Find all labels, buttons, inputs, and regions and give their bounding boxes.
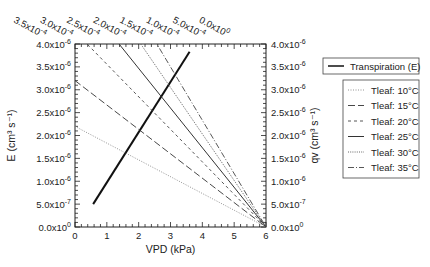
y-tick-label-mantissa: 3.5x10 — [36, 61, 65, 72]
y-tick-label-right-exponent: -6 — [300, 83, 306, 90]
x-axis-title: VPD (kPa) — [146, 243, 196, 255]
y-tick-label-exponent: -6 — [65, 106, 71, 113]
y-tick-label: 0.0x100 — [39, 221, 72, 233]
y-tick-label-right: 2.0x10-6 — [271, 129, 306, 141]
y-tick-label-right-exponent: -6 — [300, 60, 306, 67]
x-tick-label: 6 — [263, 230, 268, 241]
y-tick-label-right-mantissa: 3.0x10 — [271, 84, 300, 95]
x-tick-label: 4 — [200, 230, 205, 241]
x-tick-label: 3 — [168, 230, 173, 241]
y-tick-label-mantissa: 2.0x10 — [36, 130, 65, 141]
y-tick-label-mantissa: 3.0x10 — [36, 84, 65, 95]
y-tick-label-exponent: -6 — [65, 152, 71, 159]
legend-tleaf-label: Tleaf: 15°C — [371, 100, 419, 111]
y-tick-label-mantissa: 2.5x10 — [36, 107, 65, 118]
y-tick-label-mantissa: 1.5x10 — [36, 153, 65, 164]
y-tick-label-right-exponent: 0 — [300, 221, 304, 228]
y-tick-label-exponent: -7 — [65, 198, 71, 205]
series-line-2 — [75, 81, 266, 227]
y-tick-label-right-mantissa: 4.0x10 — [271, 39, 300, 50]
legend-tleaf-label: Tleaf: 20°C — [371, 116, 419, 127]
x-tick-label: 1 — [104, 230, 109, 241]
top-tick-label: 0.0x100 — [198, 13, 232, 39]
y-tick-label: 2.5x10-6 — [36, 106, 71, 118]
series-line-1 — [75, 126, 266, 227]
x-tick-label: 0 — [72, 230, 77, 241]
y-tick-label-exponent: -6 — [65, 129, 71, 136]
y-tick-label-mantissa: 5.0x10 — [36, 199, 65, 210]
y-axis-title-left: E (cm³ s⁻¹) — [5, 109, 17, 161]
y-tick-label: 1.5x10-6 — [36, 152, 71, 164]
y-tick-label-right: 3.5x10-6 — [271, 60, 306, 72]
legend-tleaf-label: Tleaf: 30°C — [371, 147, 419, 158]
legend-transpiration-label: Transpiration (E) — [350, 61, 420, 72]
y-tick-label-right: 4.0x10-6 — [271, 38, 306, 50]
y-tick-label-right: 3.0x10-6 — [271, 83, 306, 95]
y-tick-label-mantissa: 0.0x10 — [39, 222, 68, 233]
y-tick-label-right-exponent: -6 — [300, 175, 306, 182]
y-tick-label-mantissa: 4.0x10 — [36, 39, 65, 50]
y-tick-label-right-mantissa: 2.0x10 — [271, 130, 300, 141]
y-tick-label: 5.0x10-7 — [36, 198, 71, 210]
y-tick-label-right-exponent: -6 — [300, 38, 306, 45]
y-tick-label-exponent: 0 — [67, 221, 71, 228]
legend-tleaf-label: Tleaf: 10°C — [371, 85, 419, 96]
x-tick-label: 5 — [232, 230, 237, 241]
chart: 01234560.0x1000.0x1005.0x10-75.0x10-71.0… — [0, 0, 430, 267]
y-tick-label: 3.0x10-6 — [36, 83, 71, 95]
top-tick-label-mantissa: 3.5x10 — [12, 14, 42, 37]
y-tick-label-mantissa: 1.0x10 — [36, 176, 65, 187]
y-tick-label-right-mantissa: 3.5x10 — [271, 61, 300, 72]
y-tick-label-exponent: -6 — [65, 60, 71, 67]
y-tick-label-right: 5.0x10-7 — [271, 198, 306, 210]
legend-tleaf-label: Tleaf: 35°C — [371, 162, 419, 173]
legend-tleaf-label: Tleaf: 25°C — [371, 131, 419, 142]
y-tick-label: 1.0x10-6 — [36, 175, 71, 187]
y-tick-label-right-mantissa: 1.5x10 — [271, 153, 300, 164]
y-tick-label-exponent: -6 — [65, 175, 71, 182]
y-tick-label-exponent: -6 — [65, 38, 71, 45]
y-tick-label-right-mantissa: 1.0x10 — [271, 176, 300, 187]
y-tick-label-right-mantissa: 5.0x10 — [271, 199, 300, 210]
y-tick-label: 3.5x10-6 — [36, 60, 71, 72]
y-tick-label-right-exponent: -6 — [300, 152, 306, 159]
y-tick-label-right-mantissa: 0.0x10 — [271, 222, 300, 233]
series-line-3 — [75, 32, 266, 227]
y-tick-label-exponent: -6 — [65, 83, 71, 90]
y-tick-label-right-exponent: -6 — [300, 106, 306, 113]
x-tick-label: 2 — [136, 230, 141, 241]
y-axis-title-right: qv (cm³ s⁻¹) — [308, 107, 320, 163]
y-tick-label-right-mantissa: 2.5x10 — [271, 107, 300, 118]
y-tick-label: 2.0x10-6 — [36, 129, 71, 141]
y-tick-label-right: 2.5x10-6 — [271, 106, 306, 118]
y-tick-label: 4.0x10-6 — [36, 38, 71, 50]
y-tick-label-right-exponent: -6 — [300, 129, 306, 136]
y-tick-label-right: 0.0x100 — [271, 221, 304, 233]
plot-frame — [75, 44, 266, 227]
y-tick-label-right: 1.0x10-6 — [271, 175, 306, 187]
y-tick-label-right-exponent: -7 — [300, 198, 306, 205]
y-tick-label-right: 1.5x10-6 — [271, 152, 306, 164]
